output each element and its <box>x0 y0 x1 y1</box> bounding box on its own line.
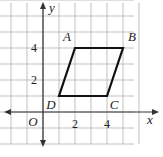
vertex-label-a: A <box>62 29 71 44</box>
x-axis-label: x <box>146 112 153 127</box>
vertex-label-d: D <box>45 97 56 112</box>
x-tick-label: 4 <box>104 117 110 131</box>
x-axis-arrow-left <box>4 109 11 115</box>
y-axis-arrow-down <box>40 140 46 147</box>
vertex-label-b: B <box>128 29 136 44</box>
coordinate-plane: yxO2424ABCD <box>0 0 163 157</box>
y-axis-arrow-up <box>40 2 46 9</box>
x-tick-label: 2 <box>72 117 78 131</box>
x-axis-arrow-right <box>152 109 159 115</box>
grid <box>0 0 139 144</box>
origin-label: O <box>28 114 38 129</box>
vertex-label-c: C <box>110 97 119 112</box>
y-tick-label: 2 <box>31 73 37 87</box>
y-axis-label: y <box>47 0 55 15</box>
y-tick-label: 4 <box>31 41 37 55</box>
